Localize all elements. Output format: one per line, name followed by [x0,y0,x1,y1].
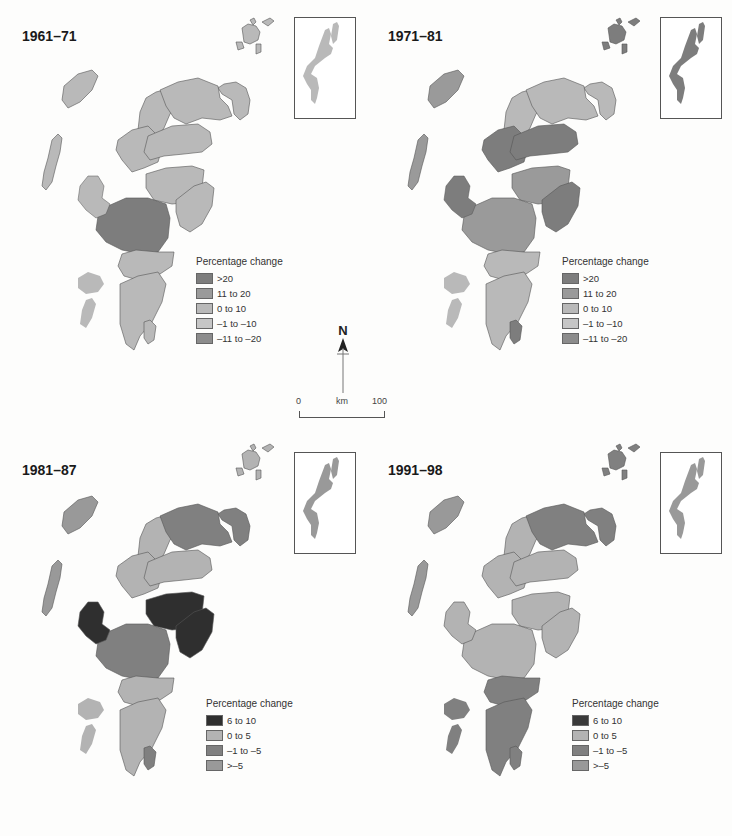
legend-swatch [572,745,589,756]
legend-swatch [562,303,579,314]
legend-swatch [196,303,213,314]
region-arran [144,746,156,770]
region-north-central [160,504,232,550]
legend-label: 0 to 10 [217,303,246,314]
legend-label: 11 to 20 [583,288,617,299]
legend: Percentage change 6 to 10 0 to 5 –1 to –… [206,698,293,773]
legend-swatch [206,730,223,741]
scale-start: 0 [296,396,301,406]
scale-bar: 0 km 100 [294,396,394,426]
legend: Percentage change >20 11 to 20 0 to 10 –… [562,256,649,346]
legend-label: 0 to 5 [227,730,251,741]
region-orkney [602,444,640,480]
region-north-central [526,78,598,124]
legend-label: 6 to 10 [227,715,256,726]
legend-item: 11 to 20 [562,286,649,300]
legend-label: >20 [583,273,599,284]
region-arran [510,746,522,770]
shetland-shape [661,18,721,118]
panel-title: 1961–71 [22,28,77,44]
legend-label: 0 to 5 [593,730,617,741]
legend-label: –1 to –5 [593,745,627,756]
legend-item: >20 [562,271,649,285]
map-panel-1981-87: Percentage change 6 to 10 0 to 5 –1 to –… [0,426,366,836]
shetland-inset [660,452,722,554]
legend-label: >20 [217,273,233,284]
north-arrow: N [328,323,358,403]
shetland-inset [294,17,356,119]
legend-title: Percentage change [196,256,283,267]
map-panel-1961-71: Percentage change >20 11 to 20 0 to 10 –… [0,0,366,410]
legend-item: >20 [196,271,283,285]
legend-swatch [562,273,579,284]
region-orkney [236,444,274,480]
legend-label: –11 to –20 [583,333,627,344]
region-mull [78,698,104,754]
legend-item: –1 to –5 [206,743,293,757]
region-skye [444,176,476,218]
north-arrow-icon [328,338,358,398]
legend-item: 0 to 5 [572,728,659,742]
legend-title: Percentage change [206,698,293,709]
map-panel-1991-98: Percentage change 6 to 10 0 to 5 –1 to –… [366,426,732,836]
region-orkney [236,18,274,54]
legend-swatch [196,273,213,284]
region-islands-west [42,496,98,616]
region-islands-west [42,70,98,190]
region-arran [144,320,156,344]
region-skye [78,176,110,218]
legend-label: 0 to 10 [583,303,612,314]
map-panel-1971-81: Percentage change >20 11 to 20 0 to 10 –… [366,0,732,410]
region-north-central [526,504,598,550]
shetland-shape [661,453,721,553]
legend-item: 0 to 10 [562,301,649,315]
region-islands-west [408,70,464,190]
legend-item: –1 to –5 [572,743,659,757]
shetland-inset [660,17,722,119]
region-north-central [160,78,232,124]
panel-title: 1981–87 [22,462,77,478]
legend-label: –1 to –10 [217,318,257,329]
region-skye [444,602,476,644]
shetland-inset [294,452,356,554]
north-label: N [328,323,358,338]
legend-item: 6 to 10 [572,713,659,727]
region-south [120,698,166,776]
legend: Percentage change >20 11 to 20 0 to 10 –… [196,256,283,346]
legend-label: >–5 [227,760,243,771]
legend-swatch [196,333,213,344]
legend-label: –11 to –20 [217,333,261,344]
scale-end: 100 [372,396,387,406]
region-skye [78,602,110,644]
region-mull [78,272,104,328]
legend-label: >–5 [593,760,609,771]
legend-swatch [572,760,589,771]
legend-swatch [572,715,589,726]
legend-swatch [562,318,579,329]
region-mull [444,698,470,754]
legend-swatch [196,288,213,299]
legend-label: 11 to 20 [217,288,251,299]
legend-swatch [196,318,213,329]
legend-swatch [206,760,223,771]
legend-label: –1 to –10 [583,318,623,329]
legend-item: –1 to –10 [562,316,649,330]
shetland-shape [295,18,355,118]
shetland-shape [295,453,355,553]
legend-swatch [562,288,579,299]
legend-swatch [562,333,579,344]
panel-title: 1991–98 [388,462,443,478]
legend-item: –1 to –10 [196,316,283,330]
legend: Percentage change 6 to 10 0 to 5 –1 to –… [572,698,659,773]
panel-title: 1971–81 [388,28,443,44]
region-south [120,272,166,350]
legend-item: 0 to 5 [206,728,293,742]
legend-label: 6 to 10 [593,715,622,726]
legend-item: –11 to –20 [562,331,649,345]
region-islands-west [408,496,464,616]
scale-bar-line [299,411,385,418]
legend-item: >–5 [206,758,293,772]
legend-item: 11 to 20 [196,286,283,300]
legend-title: Percentage change [572,698,659,709]
legend-label: –1 to –5 [227,745,261,756]
